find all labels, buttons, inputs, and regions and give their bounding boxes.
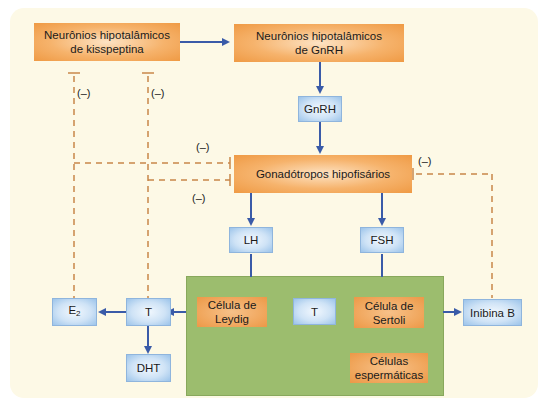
spermatic-cells-box: Células espermáticas [350, 353, 428, 383]
sertoli-line2: Sertoli [373, 313, 406, 327]
gnrh-neurons-box: Neurônios hipotalâmicos de GnRH [234, 24, 404, 62]
spermatic-line1: Células [370, 354, 408, 368]
dht-label: DHT [137, 361, 161, 375]
inhibin-b-label: Inibina B [470, 306, 515, 320]
sertoli-cell-box: Célula de Sertoli [354, 297, 424, 328]
gonadotropes-label: Gonadótropos hipofisários [256, 167, 390, 181]
negative-feedback-label: (–) [77, 87, 90, 99]
lh-label: LH [244, 233, 259, 247]
kisspeptin-line2: de kisspeptina [70, 42, 144, 56]
estradiol-label: E2 [68, 303, 80, 321]
testosterone-outer-box: T [126, 298, 171, 326]
negative-feedback-label: (–) [418, 155, 431, 167]
leydig-line1: Célula de [208, 298, 257, 312]
negative-feedback-label: (–) [151, 87, 164, 99]
inhibin-b-box: Inibina B [463, 299, 522, 326]
fsh-label: FSH [371, 233, 394, 247]
gnrh-neurons-line2: de GnRH [295, 43, 343, 57]
leydig-cell-box: Célula de Leydig [197, 297, 267, 327]
testosterone-outer-label: T [145, 305, 152, 319]
negative-feedback-label: (–) [196, 141, 209, 153]
gnrh-box: GnRH [298, 96, 342, 122]
negative-feedback-label: (–) [192, 192, 205, 204]
leydig-line2: Leydig [215, 312, 249, 326]
lh-box: LH [229, 227, 273, 253]
estradiol-box: E2 [52, 298, 97, 326]
testosterone-inner-box: T [293, 298, 336, 325]
gnrh-neurons-line1: Neurônios hipotalâmicos [256, 29, 382, 43]
kisspeptin-neurons-box: Neurônios hipotalâmicos de kisspeptina [34, 23, 180, 61]
dht-box: DHT [126, 354, 171, 382]
testosterone-inner-label: T [311, 305, 318, 319]
kisspeptin-line1: Neurônios hipotalâmicos [44, 28, 170, 42]
gnrh-label: GnRH [304, 102, 336, 116]
sertoli-line1: Célula de [365, 299, 414, 313]
spermatic-line2: espermáticas [355, 368, 423, 382]
fsh-box: FSH [360, 227, 404, 253]
gonadotropes-box: Gonadótropos hipofisários [234, 155, 412, 193]
